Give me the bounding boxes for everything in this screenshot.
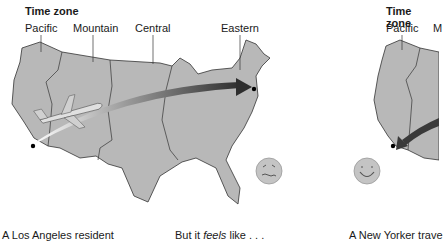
los-angeles-dot <box>31 144 35 148</box>
queasy-face-icon <box>254 156 284 186</box>
caption-new-yorker: A New Yorker trave <box>349 229 443 241</box>
caption-la-resident: A Los Angeles resident <box>2 229 114 241</box>
smiley-face-icon <box>352 156 382 186</box>
caption-feels-like: But it feels like . . . <box>175 229 264 241</box>
left-panel: Time zone Pacific Mountain Central Easte… <box>0 0 300 243</box>
right-panel: Time zone Pacific M A New Yorker trave <box>340 0 439 243</box>
new-york-dot <box>252 87 256 91</box>
